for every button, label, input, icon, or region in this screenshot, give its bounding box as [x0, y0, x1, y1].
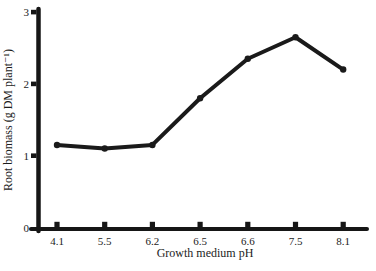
x-tick-mark: [150, 222, 155, 227]
x-tick-mark: [293, 222, 298, 227]
x-tick-label: 4.1: [50, 235, 64, 247]
x-tick-label: 8.1: [336, 235, 350, 247]
y-tick-label: 3: [24, 6, 30, 18]
data-point: [149, 142, 155, 148]
y-axis-title: Root biomass (g DM plant⁻¹): [1, 49, 15, 191]
data-point: [340, 66, 346, 72]
data-point: [102, 145, 108, 151]
x-tick-mark: [245, 222, 250, 227]
y-tick-mark: [31, 10, 37, 15]
data-point: [245, 56, 251, 62]
y-tick-label: 0: [24, 222, 30, 234]
y-tick-label: 2: [24, 78, 30, 90]
x-tick-mark: [102, 222, 107, 227]
line-chart-figure: 0123 4.15.56.26.56.67.58.1 Root biomass …: [0, 0, 376, 271]
x-tick-mark: [54, 222, 59, 227]
data-point: [197, 95, 203, 101]
y-tick-mark: [31, 153, 37, 158]
data-point: [54, 142, 60, 148]
x-tick-label: 5.5: [98, 235, 112, 247]
data-point: [292, 34, 298, 40]
y-tick-mark: [31, 82, 37, 87]
x-tick-mark: [341, 222, 346, 227]
x-tick-mark: [198, 222, 203, 227]
x-axis-title: Growth medium pH: [157, 246, 254, 260]
x-tick-label: 7.5: [289, 235, 303, 247]
y-tick-label: 1: [24, 150, 30, 162]
chart-canvas: 0123 4.15.56.26.56.67.58.1 Root biomass …: [0, 0, 376, 271]
